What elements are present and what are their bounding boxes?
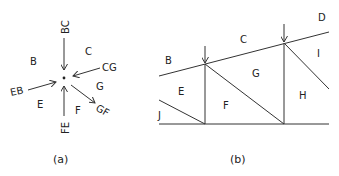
region-b: B [30, 56, 37, 67]
region-f: F [223, 100, 229, 111]
label-bc: BC [60, 20, 71, 34]
region-e: E [37, 99, 43, 110]
diagonal-member-1 [205, 64, 284, 124]
region-d: D [318, 12, 326, 23]
diagonal-member-2 [284, 43, 329, 89]
region-f: F [75, 105, 81, 116]
region-h: H [299, 90, 307, 101]
label-eb: EB [9, 84, 24, 98]
caption-a: (a) [53, 153, 68, 166]
eb-force-arrow [28, 82, 56, 90]
region-g: G [96, 81, 104, 92]
diagonal-member-j [159, 100, 205, 124]
region-i: I [317, 48, 320, 59]
joint-dot [63, 77, 66, 80]
truss-diagram: B C D E F G H I J (b) [157, 12, 329, 166]
joint-force-diagram: BC CG EB FE GF B C E F G (a) [9, 20, 117, 166]
cg-force-arrow [73, 68, 100, 76]
region-b: B [165, 55, 172, 66]
region-c: C [240, 34, 247, 45]
truss-figure: BC CG EB FE GF B C E F G (a) B C D E F G… [0, 0, 339, 176]
gf-force-arrow [71, 85, 95, 103]
region-j: J [157, 110, 161, 121]
caption-b: (b) [230, 153, 246, 166]
label-gf: GF [94, 102, 111, 118]
label-cg: CG [102, 62, 117, 73]
label-fe: FE [60, 122, 71, 134]
region-c: C [85, 46, 92, 57]
region-e: E [178, 86, 184, 97]
region-g: G [252, 68, 260, 79]
